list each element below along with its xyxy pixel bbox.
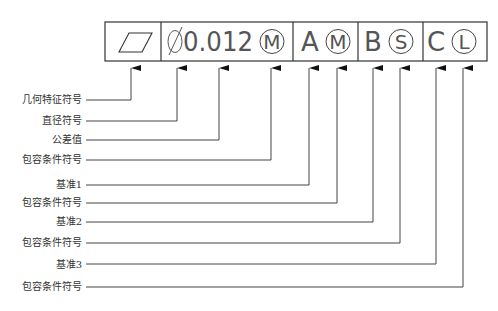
- tolerance-value: 0.012: [183, 27, 253, 57]
- datum-b-modifier-icon: S: [389, 30, 413, 55]
- gdt-feature-control-frame-diagram: 0.012 M A M B S C L: [0, 0, 498, 311]
- datum-c-modifier-icon: L: [452, 30, 476, 55]
- leader-tolerance-modifier: [86, 68, 271, 160]
- flatness-icon: [119, 33, 152, 52]
- datum-c-letter: C: [427, 27, 445, 57]
- label-datum-3: 基准3: [56, 259, 82, 271]
- label-datum-1-condition-symbol: 包容条件符号: [22, 197, 82, 209]
- leader-geometric-characteristic: [86, 68, 131, 100]
- label-datum-2-condition-symbol: 包容条件符号: [22, 237, 82, 249]
- leader-datum-2-modifier: [86, 68, 400, 243]
- leader-datum-3: [86, 68, 436, 264]
- leader-datum-1-modifier: [86, 68, 337, 203]
- datum-a-letter: A: [301, 27, 319, 57]
- datum-a-modifier-icon: M: [326, 30, 350, 55]
- diameter-icon: [168, 27, 182, 55]
- label-geometric-characteristic-symbol: 几何特征符号: [22, 94, 82, 106]
- label-datum-2: 基准2: [56, 216, 82, 228]
- leader-datum-3-modifier: [86, 68, 463, 287]
- svg-text:M: M: [329, 30, 346, 54]
- label-diameter-symbol: 直径符号: [42, 115, 82, 127]
- tolerance-modifier-icon: M: [260, 30, 284, 55]
- label-datum-3-condition-symbol: 包容条件符号: [22, 281, 82, 293]
- label-material-condition-symbol: 包容条件符号: [22, 154, 82, 166]
- leader-lines: [86, 68, 463, 287]
- leader-datum-1: [86, 68, 309, 185]
- svg-text:M: M: [263, 30, 280, 54]
- leader-datum-2: [86, 68, 373, 222]
- label-datum-1: 基准1: [56, 179, 82, 191]
- label-tolerance-value: 公差值: [52, 134, 82, 146]
- svg-text:L: L: [458, 30, 470, 54]
- svg-text:S: S: [395, 30, 408, 54]
- datum-b-letter: B: [364, 27, 382, 57]
- leader-tolerance: [86, 68, 219, 140]
